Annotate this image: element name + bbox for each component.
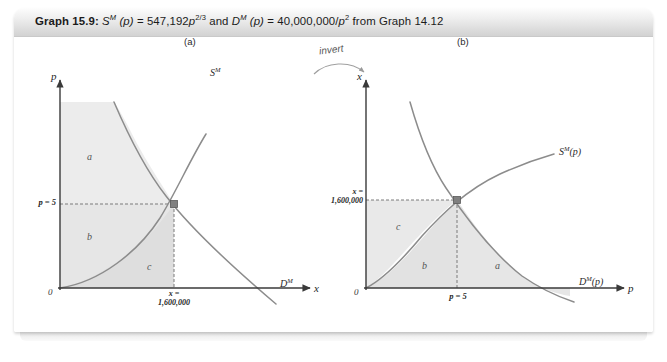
panel-b-quantity-tick-label: x = 1,600,000: [299, 188, 363, 206]
panel-b-caption: (b): [457, 36, 469, 47]
panel-b-region-b-label: b: [422, 260, 427, 271]
panel-b-region-c-label: c: [396, 221, 400, 232]
panel-b-origin-label: 0: [354, 287, 359, 297]
panel-a-region-a-shape: [60, 102, 174, 204]
panel-a-caption: (a): [184, 36, 196, 47]
panel-b-y-axis-label: x: [357, 70, 362, 82]
panel-a-group: [58, 80, 310, 304]
panel-b-quantity-tick-line2: 1,600,000: [299, 197, 363, 206]
panel-b-region-a-label: a: [495, 260, 500, 271]
figure-title: Graph 15.9: SM (p) = 547,192p2/3 and DM …: [35, 15, 443, 27]
panel-b-demand-curve-arg: (p): [592, 276, 604, 287]
panel-b-demand-curve-label: DM(p): [579, 276, 603, 287]
panel-b-price-tick-label: p = 5: [435, 291, 481, 301]
panels-area: (a) p x 0 p = 5 x = 1,600,000 SM DM a b …: [14, 38, 653, 332]
panel-a-quantity-tick-label: x = 1,600,000: [136, 290, 212, 308]
panel-a-y-axis-label: p: [51, 70, 57, 82]
panel-b-x-axis-label: p: [628, 282, 634, 294]
panel-b-region-a-shape: [457, 200, 570, 296]
panel-b-supply-curve-label: SM(p): [559, 146, 581, 157]
panel-b-group: [364, 80, 624, 302]
panel-a-region-c-label: c: [147, 261, 151, 272]
panel-a-price-tick-label: p = 5: [20, 197, 56, 207]
panel-b-equilibrium-marker: [454, 197, 461, 204]
panel-a-supply-curve-sup: M: [215, 66, 221, 73]
panel-b-supply-curve-arg: (p): [570, 146, 582, 157]
figure-card: Graph 15.9: SM (p) = 547,192p2/3 and DM …: [14, 8, 653, 332]
panel-a-supply-curve-label: SM: [210, 67, 221, 78]
panel-a-region-b-label: b: [87, 231, 92, 242]
panel-a-demand-curve-label: DM: [280, 278, 293, 289]
panel-a-quantity-tick-line2: 1,600,000: [136, 299, 212, 308]
panel-a-origin-label: 0: [48, 287, 53, 297]
graph-figure: Graph 15.9: SM (p) = 547,192p2/3 and DM …: [0, 0, 667, 362]
panel-a-demand-curve-sup: M: [287, 277, 293, 284]
panel-a-region-a-label: a: [87, 151, 92, 162]
panel-a-equilibrium-marker: [171, 201, 178, 208]
figure-title-label: Graph 15.9:: [35, 15, 99, 27]
panel-a-x-axis-label: x: [314, 282, 319, 294]
panels-svg: [14, 38, 653, 332]
panels-svg-wrap: [14, 38, 653, 332]
